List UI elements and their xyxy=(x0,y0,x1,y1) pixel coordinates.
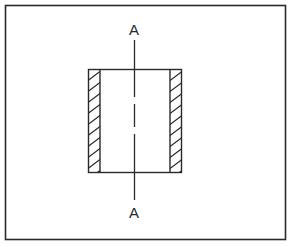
section-label-top: A xyxy=(129,22,139,37)
section-diagram xyxy=(0,0,295,247)
section-label-bottom: A xyxy=(129,205,139,220)
outer-frame xyxy=(6,6,286,240)
